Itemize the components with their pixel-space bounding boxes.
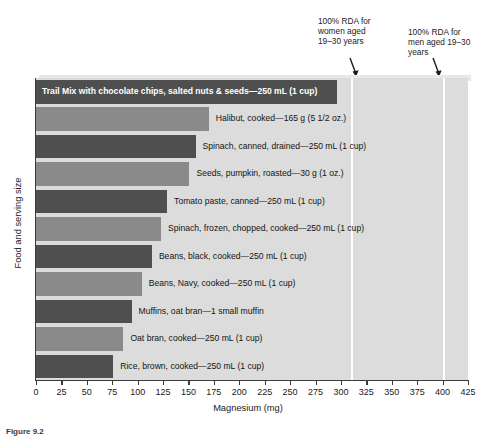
x-axis-tick — [214, 380, 215, 385]
x-axis-tick — [366, 380, 367, 385]
bar-row: Oat bran, cooked—250 mL (1 cup) — [36, 325, 468, 352]
bar-label: Beans, Navy, cooked—250 mL (1 cup) — [149, 272, 296, 296]
bar-label: Trail Mix with chocolate chips, salted n… — [42, 80, 317, 104]
bar-label: Rice, brown, cooked—250 mL (1 cup) — [120, 355, 264, 379]
x-axis-label: Magnesium (mg) — [0, 403, 496, 413]
x-axis-tick — [290, 380, 291, 385]
bar — [36, 245, 152, 269]
bar-label: Seeds, pumpkin, roasted—30 g (1 oz.) — [196, 162, 343, 186]
x-axis-tick — [443, 380, 444, 385]
y-axis-label: Food and serving size — [13, 143, 23, 303]
bar — [36, 355, 113, 379]
bar-row: Beans, black, cooked—250 mL (1 cup) — [36, 243, 468, 270]
x-axis-tick — [316, 380, 317, 385]
x-axis-tick — [138, 380, 139, 385]
bar — [36, 190, 167, 214]
x-axis-line — [36, 380, 469, 381]
rda-women-annotation: 100% RDA for women aged 19–30 years — [318, 16, 380, 47]
x-axis-tick — [61, 380, 62, 385]
plot-area: Trail Mix with chocolate chips, salted n… — [36, 78, 468, 380]
bar-label: Beans, black, cooked—250 mL (1 cup) — [159, 245, 307, 269]
x-axis-tick — [87, 380, 88, 385]
bar-row: Beans, Navy, cooked—250 mL (1 cup) — [36, 270, 468, 297]
bar-row: Tomato paste, canned—250 mL (1 cup) — [36, 188, 468, 215]
figure-caption: Figure 9.2 — [6, 427, 306, 436]
bar-row: Seeds, pumpkin, roasted—30 g (1 oz.) — [36, 160, 468, 187]
bar — [36, 135, 196, 159]
bar-row: Trail Mix with chocolate chips, salted n… — [36, 78, 468, 105]
x-axis-tick-label: 425 — [453, 387, 483, 397]
bar-row: Spinach, frozen, chopped, cooked—250 mL … — [36, 215, 468, 242]
x-axis-tick — [188, 380, 189, 385]
x-axis-tick — [112, 380, 113, 385]
x-axis-tick — [417, 380, 418, 385]
bar — [36, 327, 123, 351]
bar — [36, 162, 189, 186]
bar-label: Spinach, frozen, chopped, cooked—250 mL … — [168, 217, 364, 241]
bar-row: Muffins, oat bran—1 small muffin — [36, 298, 468, 325]
bar — [36, 272, 142, 296]
bar-row: Halibut, cooked—165 g (5 1/2 oz.) — [36, 105, 468, 132]
bar-row: Rice, brown, cooked—250 mL (1 cup) — [36, 353, 468, 380]
x-axis-tick — [468, 380, 469, 385]
x-axis-tick — [392, 380, 393, 385]
bar-label: Tomato paste, canned—250 mL (1 cup) — [174, 190, 325, 214]
x-axis-tick — [163, 380, 164, 385]
bar-label: Oat bran, cooked—250 mL (1 cup) — [130, 327, 262, 351]
bar-label: Halibut, cooked—165 g (5 1/2 oz.) — [216, 107, 346, 131]
x-axis-tick — [341, 380, 342, 385]
y-axis-line — [35, 78, 36, 381]
bar-label: Spinach, canned, drained—250 mL (1 cup) — [203, 135, 367, 159]
x-axis-tick — [239, 380, 240, 385]
bar — [36, 107, 209, 131]
bar-label: Muffins, oat bran—1 small muffin — [139, 300, 264, 324]
bar — [36, 217, 161, 241]
magnesium-bar-chart: 100% RDA for women aged 19–30 years 100%… — [0, 0, 496, 436]
x-axis-tick — [36, 380, 37, 385]
x-axis-tick — [265, 380, 266, 385]
bar-row: Spinach, canned, drained—250 mL (1 cup) — [36, 133, 468, 160]
bar — [36, 300, 132, 324]
rda-men-annotation: 100% RDA for men aged 19–30 years — [408, 27, 474, 58]
